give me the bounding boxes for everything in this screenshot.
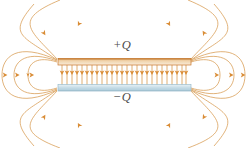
arrowhead-icon xyxy=(76,122,83,129)
arrowheads-right xyxy=(166,21,246,129)
arrowhead-icon xyxy=(201,29,208,36)
positive-plate xyxy=(58,59,191,66)
arrowhead-icon xyxy=(201,114,208,121)
arrowhead-icon xyxy=(15,73,20,78)
arrowheads-left xyxy=(3,21,83,129)
negative-charge-label: −Q xyxy=(113,90,131,105)
positive-charge-label: +Q xyxy=(113,38,131,53)
arrowhead-icon xyxy=(41,30,48,37)
fringe-loop-right-2 xyxy=(191,56,234,93)
arrowhead-icon xyxy=(166,122,173,129)
fringe-loop-left-2 xyxy=(14,56,57,93)
arrowhead-icon xyxy=(166,21,173,28)
arrowhead-icon xyxy=(29,73,34,78)
fringe-loop-left-4 xyxy=(30,0,60,59)
arrowhead-icon xyxy=(41,114,48,121)
arrowhead-icon xyxy=(215,73,220,78)
field-lines-svg xyxy=(0,0,246,148)
fringe-loop-right-5 xyxy=(188,91,218,148)
arrowhead-icon xyxy=(3,73,8,78)
capacitor-field-diagram: +Q −Q xyxy=(0,0,246,148)
fringe-loop-right-4 xyxy=(188,0,218,59)
interior-arrowheads xyxy=(60,71,189,76)
arrowhead-icon xyxy=(76,21,83,28)
interior-field-lines xyxy=(62,65,186,86)
fringe-loop-left-5 xyxy=(30,91,60,148)
arrowhead-icon xyxy=(229,73,234,78)
